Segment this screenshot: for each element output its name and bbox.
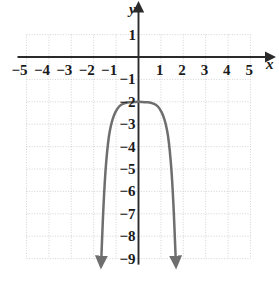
y-tick-label: −5	[120, 162, 136, 177]
y-tick-label: −4	[120, 140, 136, 155]
y-tick-label: −6	[120, 184, 136, 199]
y-tick-label: −7	[120, 207, 136, 222]
x-tick-label: 1	[156, 63, 164, 78]
x-tick-label: −5	[12, 63, 28, 78]
x-tick-label: −1	[101, 63, 117, 78]
y-tick-label: 1	[129, 28, 137, 43]
y-tick-label: −9	[120, 252, 136, 267]
x-tick-label: −2	[79, 63, 95, 78]
y-tick-label: −8	[120, 229, 136, 244]
y-tick-label: −1	[120, 72, 136, 87]
y-tick-label: −2	[120, 95, 136, 110]
x-tick-label: −4	[34, 63, 50, 78]
y-tick-label: −3	[120, 117, 136, 132]
axis-lines	[18, 11, 267, 265]
x-tick-label: −3	[56, 63, 72, 78]
x-tick-label: 4	[223, 63, 231, 78]
x-axis-label: x	[266, 57, 274, 72]
x-tick-label: 5	[246, 63, 254, 78]
coordinate-plane	[0, 0, 279, 297]
graph-figure: −5−4−3−2−1123451−1−2−3−4−5−6−7−8−9 x y	[0, 0, 279, 297]
y-axis-label: y	[129, 2, 136, 17]
x-tick-label: 3	[201, 63, 209, 78]
x-tick-label: 2	[178, 63, 186, 78]
